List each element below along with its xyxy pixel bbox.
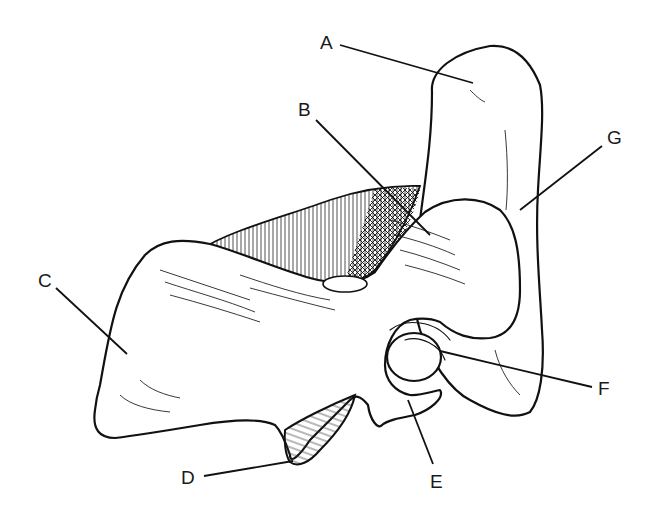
socket-f	[387, 333, 441, 381]
label-a: A	[320, 33, 333, 52]
label-b: B	[298, 100, 311, 119]
label-g: G	[607, 128, 622, 147]
label-d: D	[181, 468, 195, 487]
bone-diagram	[0, 0, 653, 509]
label-e: E	[430, 472, 443, 491]
label-c: C	[38, 271, 52, 290]
leader-d	[204, 461, 293, 476]
foramen	[323, 276, 367, 292]
label-f: F	[598, 379, 610, 398]
